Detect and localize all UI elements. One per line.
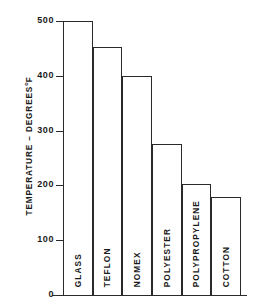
y-tick-label-500: 500: [26, 16, 54, 25]
y-tick-label-400: 400: [26, 71, 54, 80]
bar-teflon[interactable]: TEFLON: [93, 47, 123, 295]
bar-label-polyester: POLYESTER: [163, 228, 171, 287]
bar-label-polypropylene: POLYPROPYLENE: [193, 200, 201, 287]
y-axis-title-text: TEMPERATURE – DEGREES: [25, 86, 34, 216]
degree-superscript: o: [23, 82, 29, 85]
y-tick-label-0: 0: [26, 290, 54, 299]
plot-area: GLASSTEFLONNOMEXPOLYESTERPOLYPROPYLENECO…: [63, 0, 241, 296]
y-tick-label-300: 300: [26, 126, 54, 135]
bar-polyester[interactable]: POLYESTER: [152, 144, 182, 295]
bar-cotton[interactable]: COTTON: [211, 197, 241, 295]
y-tick-label-100: 100: [26, 235, 54, 244]
bar-label-nomex: NOMEX: [133, 251, 141, 287]
bar-nomex[interactable]: NOMEX: [122, 76, 152, 295]
bar-label-glass: GLASS: [74, 253, 82, 287]
bar-label-cotton: COTTON: [222, 246, 230, 287]
bar-polypropylene[interactable]: POLYPROPYLENE: [182, 184, 212, 295]
bar-chart: TEMPERATURE – DEGREESoF 0100200300400500…: [0, 0, 257, 307]
bar-label-teflon: TEFLON: [104, 247, 112, 287]
y-tick-label-200: 200: [26, 180, 54, 189]
bar-glass[interactable]: GLASS: [63, 21, 93, 295]
